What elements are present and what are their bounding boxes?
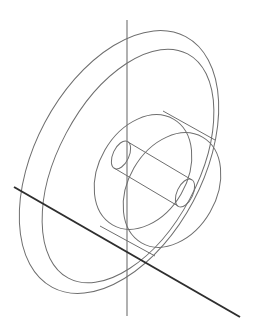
wireframe-drawing bbox=[0, 0, 257, 333]
rim-front-ellipse bbox=[0, 0, 257, 327]
cad-viewport[interactable] bbox=[0, 0, 257, 333]
hub-back-ellipse bbox=[103, 115, 240, 265]
rim-back-ellipse bbox=[7, 21, 250, 311]
hub-front-ellipse bbox=[74, 97, 211, 247]
shaft-line-top bbox=[128, 142, 192, 180]
